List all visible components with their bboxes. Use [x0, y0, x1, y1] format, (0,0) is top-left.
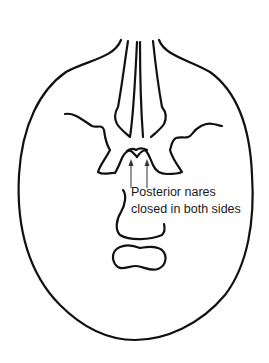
nasal-septum	[140, 42, 143, 137]
annotation-line-1: Posterior nares	[131, 184, 241, 201]
arrow-head-right	[145, 159, 150, 166]
sphenoid-left-wing	[65, 114, 137, 174]
nasal-bone-right	[151, 41, 166, 137]
face-diagram	[0, 0, 269, 363]
nasal-bone-left	[115, 41, 137, 137]
annotation-label: Posterior nares closed in both sides	[131, 184, 241, 218]
sphenoid-right-wing	[137, 124, 222, 174]
arrow-head-left	[129, 159, 134, 166]
annotation-line-2: closed in both sides	[131, 201, 241, 218]
mouth-outline	[113, 245, 166, 269]
